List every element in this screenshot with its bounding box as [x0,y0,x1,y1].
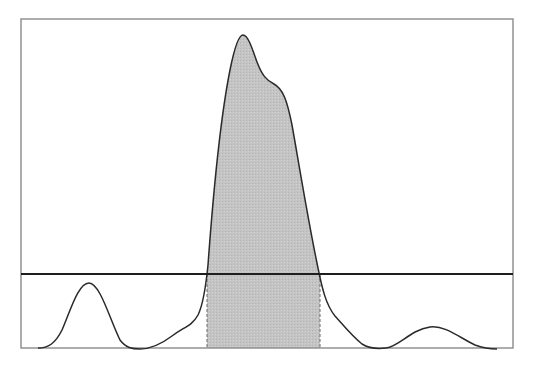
shaded-region [38,35,497,349]
density-chart [0,0,537,370]
